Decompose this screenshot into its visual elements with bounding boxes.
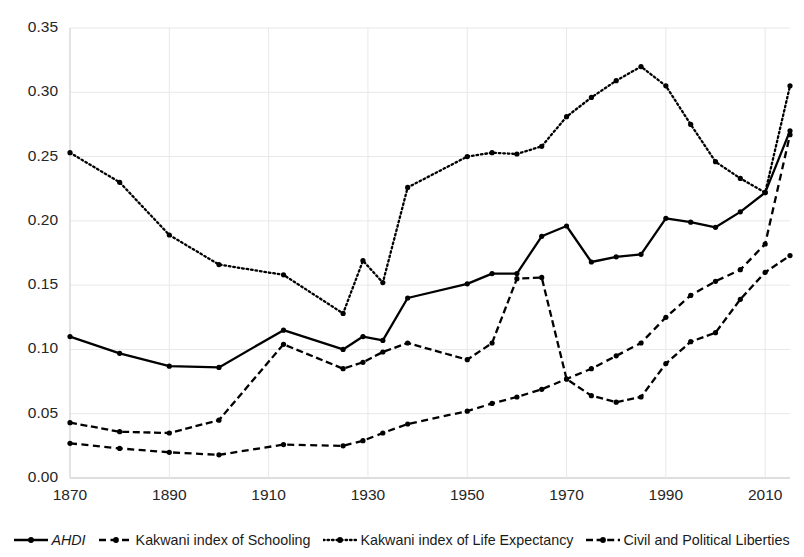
chart-legend: AHDIKakwani index of SchoolingKakwani in… xyxy=(0,523,804,557)
data-point-marker xyxy=(514,276,519,281)
data-point-marker xyxy=(688,293,693,298)
y-axis-tick-label: 0.20 xyxy=(10,211,58,229)
data-point-marker xyxy=(465,409,470,414)
data-point-marker xyxy=(688,339,693,344)
data-point-marker xyxy=(117,429,122,434)
series-line-3 xyxy=(70,256,790,433)
data-point-marker xyxy=(167,430,172,435)
data-point-marker xyxy=(514,151,519,156)
x-axis-tick-label: 2010 xyxy=(737,486,793,504)
data-point-marker xyxy=(589,393,594,398)
data-point-marker xyxy=(539,234,544,239)
data-point-marker xyxy=(589,95,594,100)
data-point-marker xyxy=(713,159,718,164)
data-point-marker xyxy=(117,351,122,356)
legend-key-dashed-icon xyxy=(99,533,133,547)
x-axis-tick-label: 1890 xyxy=(141,486,197,504)
data-point-marker xyxy=(787,83,792,88)
data-point-marker xyxy=(281,342,286,347)
x-axis-tick-label: 1950 xyxy=(439,486,495,504)
data-point-marker xyxy=(341,347,346,352)
series-line-2 xyxy=(70,67,790,314)
legend-item-1[interactable]: Kakwani index of Schooling xyxy=(99,533,311,547)
data-point-marker xyxy=(713,279,718,284)
line-chart-plot xyxy=(0,0,804,520)
data-point-marker xyxy=(380,280,385,285)
data-point-marker xyxy=(589,259,594,264)
data-point-marker xyxy=(614,254,619,259)
legend-item-0[interactable]: AHDI xyxy=(14,533,85,547)
legend-label-0: AHDI xyxy=(51,533,85,547)
x-axis-tick-label: 1910 xyxy=(241,486,297,504)
data-point-marker xyxy=(738,267,743,272)
data-point-marker xyxy=(67,441,72,446)
data-point-marker xyxy=(763,241,768,246)
data-point-marker xyxy=(713,330,718,335)
series-line-0 xyxy=(70,131,790,368)
data-point-marker xyxy=(489,340,494,345)
data-point-marker xyxy=(638,394,643,399)
data-point-marker xyxy=(589,366,594,371)
data-point-marker xyxy=(738,297,743,302)
data-point-marker xyxy=(360,334,365,339)
data-point-marker xyxy=(360,258,365,263)
data-point-marker xyxy=(663,315,668,320)
data-point-marker xyxy=(380,349,385,354)
legend-label-2: Kakwani index of Life Expectancy xyxy=(360,533,573,547)
data-point-marker xyxy=(117,180,122,185)
data-point-marker xyxy=(489,401,494,406)
data-point-marker xyxy=(539,387,544,392)
legend-key-solid-icon xyxy=(14,533,48,547)
data-point-marker xyxy=(787,253,792,258)
data-point-marker xyxy=(405,295,410,300)
data-point-marker xyxy=(360,438,365,443)
data-point-marker xyxy=(405,185,410,190)
data-point-marker xyxy=(614,400,619,405)
y-axis-tick-label: 0.00 xyxy=(10,468,58,486)
data-point-marker xyxy=(216,452,221,457)
legend-key-dashdot-icon xyxy=(586,533,620,547)
data-point-marker xyxy=(614,78,619,83)
data-point-marker xyxy=(638,252,643,257)
data-point-marker xyxy=(489,150,494,155)
data-point-marker xyxy=(281,442,286,447)
data-point-marker xyxy=(216,262,221,267)
y-axis-tick-label: 0.05 xyxy=(10,404,58,422)
data-point-marker xyxy=(216,365,221,370)
data-point-marker xyxy=(117,446,122,451)
data-point-marker xyxy=(281,328,286,333)
x-axis-tick-label: 1870 xyxy=(42,486,98,504)
data-point-marker xyxy=(67,420,72,425)
data-point-marker xyxy=(167,232,172,237)
data-point-marker xyxy=(514,394,519,399)
data-point-marker xyxy=(67,150,72,155)
chart-root: 0.000.050.100.150.200.250.300.35 1870189… xyxy=(0,0,804,557)
data-point-marker xyxy=(763,270,768,275)
data-point-marker xyxy=(738,209,743,214)
legend-item-2[interactable]: Kakwani index of Life Expectancy xyxy=(323,533,573,547)
x-axis-tick-label: 1990 xyxy=(638,486,694,504)
data-point-marker xyxy=(380,338,385,343)
y-axis-tick-label: 0.10 xyxy=(10,339,58,357)
data-point-marker xyxy=(638,64,643,69)
y-axis-tick-label: 0.15 xyxy=(10,275,58,293)
data-point-marker xyxy=(514,271,519,276)
data-point-marker xyxy=(465,154,470,159)
data-point-marker xyxy=(663,361,668,366)
data-point-marker xyxy=(380,430,385,435)
data-point-marker xyxy=(614,353,619,358)
data-point-marker xyxy=(564,114,569,119)
data-point-marker xyxy=(216,418,221,423)
data-point-marker xyxy=(763,190,768,195)
data-point-marker xyxy=(465,281,470,286)
data-point-marker xyxy=(564,376,569,381)
data-point-marker xyxy=(405,421,410,426)
series-line-1 xyxy=(70,135,790,455)
data-point-marker xyxy=(564,223,569,228)
data-point-marker xyxy=(539,144,544,149)
legend-label-1: Kakwani index of Schooling xyxy=(136,533,311,547)
y-axis-tick-label: 0.30 xyxy=(10,82,58,100)
data-point-marker xyxy=(465,357,470,362)
data-point-marker xyxy=(663,83,668,88)
legend-item-3[interactable]: Civil and Political Liberties xyxy=(586,533,789,547)
